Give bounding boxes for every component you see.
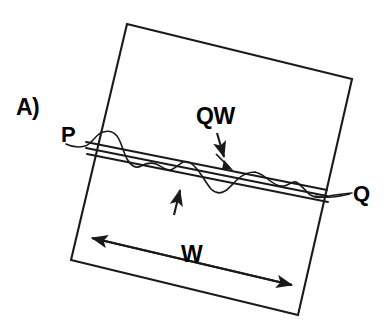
point-p-label: P (61, 124, 75, 146)
specimen-outline (71, 24, 352, 315)
figure-canvas (0, 0, 390, 335)
qw-arrow-down-icon (217, 133, 224, 157)
figure-panel: A) P Q QW W (0, 0, 390, 335)
width-dimension-label: W (181, 243, 202, 266)
quality-window-label: QW (196, 105, 235, 128)
point-q-label: Q (353, 183, 370, 205)
measurement-band (86, 142, 328, 202)
trace-arrow-up-icon (174, 190, 180, 215)
panel-letter: A) (16, 96, 39, 119)
surface-trace (66, 131, 352, 197)
